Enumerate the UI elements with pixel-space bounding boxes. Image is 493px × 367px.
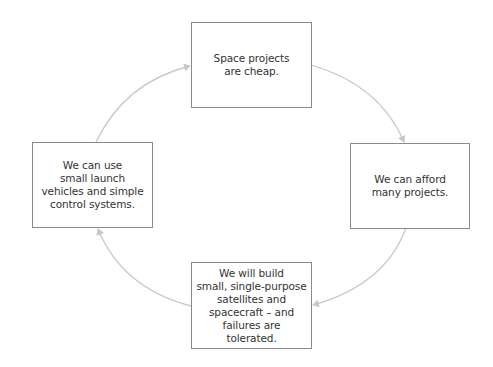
arrow-top-to-right: [311, 65, 404, 142]
node-top: Space projects are cheap.: [191, 22, 312, 108]
node-bottom: We will build small, single-purpose sate…: [191, 262, 312, 349]
node-right-label: We can afford many projects.: [372, 173, 449, 199]
node-bottom-label: We will build small, single-purpose sate…: [196, 267, 307, 345]
node-top-label: Space projects are cheap.: [214, 52, 290, 78]
node-left: We can use small launch vehicles and sim…: [32, 142, 153, 228]
arrow-bottom-to-left: [98, 229, 191, 306]
node-right: We can afford many projects.: [350, 143, 470, 229]
node-left-label: We can use small launch vehicles and sim…: [41, 159, 143, 211]
arrow-left-to-top: [96, 66, 190, 142]
arrow-right-to-bottom: [313, 228, 406, 305]
